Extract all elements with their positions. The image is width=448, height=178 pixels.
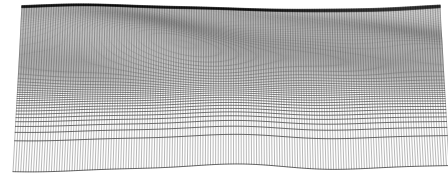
figure-root [0, 0, 448, 178]
wireframe-mesh-plot [0, 0, 448, 178]
